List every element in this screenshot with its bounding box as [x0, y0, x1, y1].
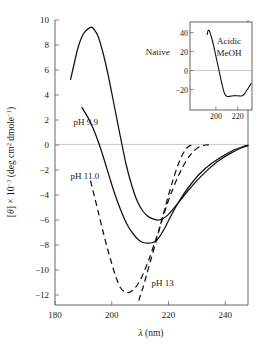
cd-spectra-chart: 1086420−2−4−6−8−10−12 180200220240 Nativ… — [0, 0, 262, 353]
label-ph-13: pH 13 — [152, 278, 175, 288]
y-tick-label: 8 — [45, 40, 50, 50]
y-tick-label: −2 — [39, 165, 49, 175]
y-tick-label: −8 — [39, 240, 49, 250]
inset-title-line2: MeOH — [217, 48, 242, 58]
inset-x-tick-label: 220 — [232, 112, 244, 121]
x-tick-label: 200 — [105, 310, 119, 320]
x-tick-label: 220 — [162, 310, 176, 320]
inset-y-tick-label: 20 — [180, 48, 188, 57]
y-tick-label: −12 — [35, 290, 49, 300]
y-tick-label: 10 — [40, 15, 50, 25]
x-tick-label: 180 — [48, 310, 62, 320]
label-native: Native — [146, 47, 170, 57]
inset-title-line1: Acidic — [217, 36, 241, 46]
y-tick-label: −4 — [39, 190, 49, 200]
y-tick-label: 4 — [45, 90, 50, 100]
inset-y-tick-label: 0 — [184, 67, 188, 76]
label-ph-9-9: pH 9.9 — [73, 117, 98, 127]
y-tick-label: −10 — [35, 265, 50, 275]
y-axis-title: [θ] × 10−3 (deg cm2 dmole−1) — [5, 107, 17, 217]
x-tick-label: 240 — [219, 310, 233, 320]
inset-y-tick-label: 40 — [180, 29, 188, 38]
svg-text:λ (nm): λ (nm) — [138, 328, 164, 339]
x-axis-title: λ (nm) — [138, 328, 164, 339]
y-tick-label: −6 — [39, 215, 49, 225]
inset-x-tick-label: 200 — [210, 112, 222, 121]
y-tick-label: 0 — [45, 140, 50, 150]
chart-figure: 1086420−2−4−6−8−10−12 180200220240 Nativ… — [0, 0, 262, 353]
svg-text:[θ] × 10−3 (deg cm2 dmole−1): [θ] × 10−3 (deg cm2 dmole−1) — [5, 107, 17, 217]
inset-y-tick-label: −20 — [175, 86, 188, 95]
y-tick-label: 2 — [45, 115, 50, 125]
y-tick-label: 6 — [45, 65, 50, 75]
label-ph-11-0: pH 11.0 — [71, 171, 100, 181]
